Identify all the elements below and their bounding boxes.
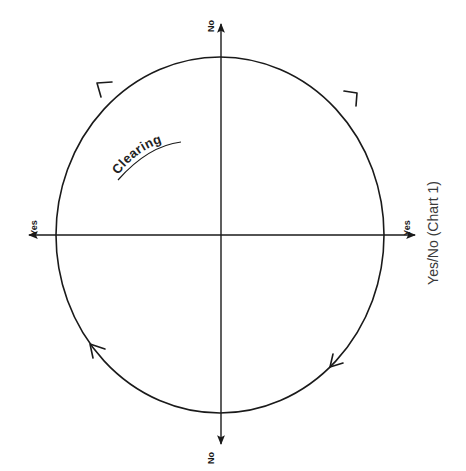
direction-arrow-upper-left-icon xyxy=(97,82,112,97)
clearing-label: Clearing xyxy=(109,131,164,177)
chart-caption: Yes/No (Chart 1) xyxy=(425,181,441,285)
right-axis-label: Yes xyxy=(402,220,412,236)
top-axis-label: No xyxy=(206,20,216,32)
direction-arrow-upper-right-icon xyxy=(344,91,357,106)
bottom-axis-label: No xyxy=(206,452,216,464)
yes-no-diagram: No No Yes Yes Yes/No (Chart 1) Clearing xyxy=(0,0,466,471)
left-axis-label: Yes xyxy=(29,220,39,236)
